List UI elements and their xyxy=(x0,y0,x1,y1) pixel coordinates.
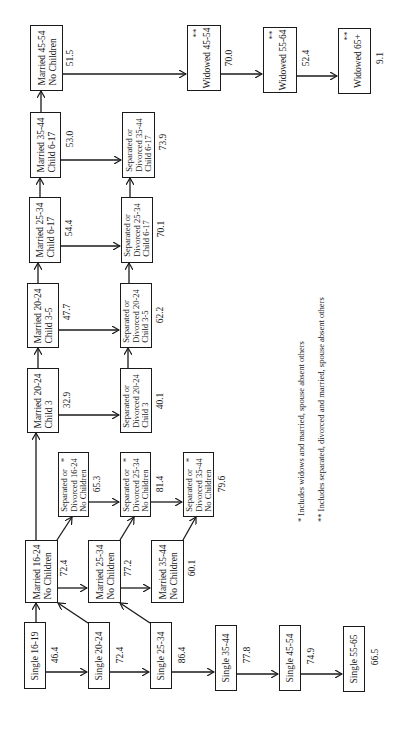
node-sep-div-35-44-child-6-17: Separated orDivorced 35-44Child 6-17 xyxy=(122,112,155,178)
node-value: 47.7 xyxy=(62,304,72,321)
node-value: 51.5 xyxy=(65,50,75,67)
node-value: 77.2 xyxy=(123,560,133,577)
node-married-35-44-child-6-17: Married 35-44Child 6-17 xyxy=(30,112,61,178)
node-label: Married 16-24No Children xyxy=(31,544,52,599)
node-value: 72.4 xyxy=(115,647,125,664)
node-label: Married 35-44No Children xyxy=(157,544,178,599)
footnote-marker: ** xyxy=(267,31,277,40)
node-value: 70.1 xyxy=(156,221,166,238)
node-label: Separated orDivorced 25-34No Children xyxy=(121,458,150,512)
node-value: 53.0 xyxy=(65,131,75,148)
footnote-double-star: ** Includes separated, divorced and marr… xyxy=(316,297,326,522)
node-label: Married 35-44Child 6-17 xyxy=(35,117,56,172)
node-widowed-65-plus: Widowed 65+ ** xyxy=(338,28,371,94)
node-sep-div-25-34-child-6-17: Separated orDivorced 25-34Child 6-17 xyxy=(121,197,153,263)
node-value: 72.4 xyxy=(59,560,69,577)
node-label: Married 45-54No Children xyxy=(36,30,57,85)
node-widowed-55-64: Widowed 55-64 ** xyxy=(263,27,297,93)
node-label: Widowed 45-54 xyxy=(202,27,213,88)
node-value: 74.9 xyxy=(306,648,316,665)
node-label: Separated orDivorced 20-24Child 3-5 xyxy=(122,289,151,343)
footnote-marker: * xyxy=(121,458,131,463)
node-value: 66.5 xyxy=(370,649,380,666)
node-value: 9.1 xyxy=(375,52,385,64)
node-label: Single 20-24 xyxy=(94,631,105,680)
node-married-35-44-no-children: Married 35-44No Children xyxy=(151,540,184,603)
node-label: Single 45-54 xyxy=(285,634,296,683)
node-label: Separated orDivorced 35-44Child 6-17 xyxy=(124,118,153,172)
node-value: 52.4 xyxy=(301,50,311,67)
node-value: 73.9 xyxy=(158,134,168,151)
node-value: 60.1 xyxy=(187,560,197,577)
node-label: Single 55-65 xyxy=(349,635,360,684)
node-label: Married 25-34No Children xyxy=(94,544,115,599)
node-value: 70.0 xyxy=(224,50,234,67)
node-married-25-34-child-6-17: Married 25-34Child 6-17 xyxy=(29,197,61,263)
node-label: Separated orDivorced 25-34Child 6-17 xyxy=(123,203,152,257)
node-value: 65.3 xyxy=(92,476,102,493)
node-sep-div-25-34-no-children: Separated orDivorced 25-34No Children * xyxy=(120,452,151,517)
node-value: 46.4 xyxy=(50,647,60,664)
node-value: 77.8 xyxy=(242,647,252,664)
node-label: Married 25-34Child 6-17 xyxy=(35,202,56,257)
node-single-25-34: Single 25-34 xyxy=(150,622,172,689)
node-value: 54.4 xyxy=(64,220,74,237)
node-label: Single 35-44 xyxy=(221,634,232,683)
node-value: 81.4 xyxy=(155,476,165,493)
node-value: 79.6 xyxy=(217,476,227,493)
life-cycle-flow-diagram: Single 16-19 46.4 Single 20-24 72.4 Sing… xyxy=(0,0,397,731)
node-value: 32.9 xyxy=(62,392,72,409)
node-label: Widowed 65+ xyxy=(352,34,363,88)
node-single-35-44: Single 35-44 xyxy=(215,625,237,691)
node-label: Married 20-24Child 3 xyxy=(33,373,54,428)
connector-arrows xyxy=(0,0,397,731)
footnote-marker: ** xyxy=(342,32,352,41)
node-value: 40.1 xyxy=(155,393,165,410)
node-single-45-54: Single 45-54 xyxy=(279,625,301,691)
node-single-16-19: Single 16-19 xyxy=(24,622,46,689)
node-label: Separated orDivorced 16-24No Children xyxy=(59,458,88,512)
node-married-20-24-child-3-5: Married 20-24Child 3-5 xyxy=(27,283,59,348)
node-label: Married 20-24Child 3-5 xyxy=(33,288,54,343)
footnote-marker: * xyxy=(184,458,194,463)
node-married-16-24-no-children: Married 16-24No Children xyxy=(25,540,58,603)
node-label: Separated orDivorced 20-24Child 3 xyxy=(122,374,151,428)
node-married-25-34-no-children: Married 25-34No Children xyxy=(88,540,121,603)
footnote-marker: ** xyxy=(191,29,201,38)
node-label: Widowed 55-64 xyxy=(278,29,289,90)
node-value: 86.4 xyxy=(177,647,187,664)
node-sep-div-20-24-child-3-5: Separated orDivorced 20-24Child 3-5 xyxy=(120,283,152,348)
node-label: Single 25-34 xyxy=(156,631,167,680)
node-married-45-54-no-children: Married 45-54No Children xyxy=(30,25,63,91)
node-married-20-24-child-3: Married 20-24Child 3 xyxy=(27,368,59,433)
footnote-single-star: * Includes widows and married, spouse ab… xyxy=(296,341,306,522)
node-sep-div-16-24-no-children: Separated orDivorced 16-24No Children * xyxy=(58,452,89,517)
node-label: Single 16-19 xyxy=(30,631,41,680)
node-single-55-65: Single 55-65 xyxy=(343,626,365,692)
node-label: Separated orDivorced 35-44No Children xyxy=(184,458,213,512)
node-widowed-45-54: Widowed 45-54 ** xyxy=(187,25,221,91)
footnote-marker: * xyxy=(59,458,69,463)
node-value: 62.2 xyxy=(155,307,165,324)
node-sep-div-20-24-child-3: Separated orDivorced 20-24Child 3 xyxy=(120,368,152,433)
node-single-20-24: Single 20-24 xyxy=(88,622,110,689)
node-sep-div-35-44-no-children: Separated orDivorced 35-44No Children * xyxy=(183,452,214,517)
